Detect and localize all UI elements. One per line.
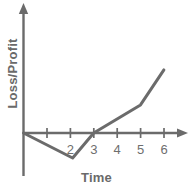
loss-profit-chart: 2 3 4 5 6 Time Loss/Profit	[0, 0, 193, 190]
x-tick-label-3: 3	[90, 142, 97, 157]
x-tick-label-4: 4	[114, 142, 121, 157]
x-tick-label-5: 5	[137, 142, 144, 157]
y-axis-title: Loss/Profit	[5, 29, 20, 119]
x-axis-arrow-icon	[177, 128, 188, 137]
x-tick-label-6: 6	[160, 142, 167, 157]
y-axis-arrow-icon	[19, 3, 28, 14]
x-axis-title: Time	[0, 170, 193, 185]
chart-canvas: 2 3 4 5 6	[0, 0, 193, 190]
